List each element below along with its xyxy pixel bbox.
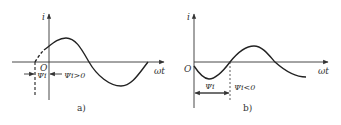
phase-label-b: Ψi — [205, 82, 215, 91]
y-axis-label-a: i — [42, 12, 45, 22]
sinusoid-phase-diagram: i ωt O Ψi Ψi>0 a) i ωt O Ψi Ψi<0 b) — [0, 0, 341, 125]
phase-condition-b: Ψi<0 — [234, 83, 255, 92]
panel-b: i ωt O Ψi Ψi<0 b) — [184, 12, 329, 113]
phase-condition-a: Ψi>0 — [64, 71, 85, 80]
sine-curve-b — [194, 46, 306, 79]
x-axis-label-a: ωt — [154, 66, 165, 76]
caption-b: b) — [243, 103, 252, 113]
caption-a: a) — [77, 103, 86, 113]
curve-dashed-extension-a — [35, 50, 44, 62]
x-axis-label-b: ωt — [318, 66, 329, 76]
y-axis-label-b: i — [187, 12, 190, 22]
panel-a: i ωt O Ψi Ψi>0 a) — [12, 12, 165, 113]
origin-label-b: O — [184, 64, 192, 74]
phase-label-a: Ψi — [37, 71, 47, 80]
